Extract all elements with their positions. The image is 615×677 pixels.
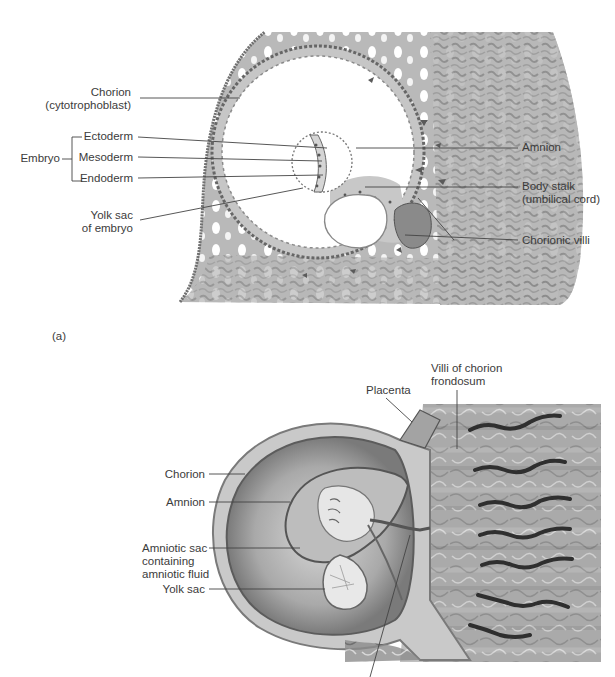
label-amnion-b: Amnion	[166, 496, 205, 509]
label-embryo: Embryo	[20, 152, 60, 165]
label-body-stalk: Body stalk (umbilical cord)	[522, 180, 600, 206]
label-amnion-a: Amnion	[522, 141, 561, 154]
label-villi-chorion-frondosum: Villi of chorion frondosum	[431, 362, 502, 388]
label-amniotic-line1: Amniotic sac	[142, 542, 209, 555]
label-mesoderm: Mesoderm	[79, 151, 133, 164]
label-chorion-line2: (cytotrophoblast)	[45, 99, 131, 112]
label-chorion-line1: Chorion	[45, 86, 131, 99]
embryo-development-figure: Chorion (cytotrophoblast) Embryo Ectoder…	[0, 0, 615, 677]
panel-label-a: (a)	[52, 330, 66, 343]
label-yolk-sac-line1: Yolk sac	[82, 209, 133, 222]
label-amniotic-line2: containing	[142, 555, 209, 568]
label-amniotic-line3: amniotic fluid	[142, 568, 209, 581]
label-amniotic-sac: Amniotic sac containing amniotic fluid	[142, 542, 209, 581]
label-placenta: Placenta	[366, 384, 411, 397]
label-body-stalk-line1: Body stalk	[522, 180, 600, 193]
label-body-stalk-line2: (umbilical cord)	[522, 193, 600, 206]
label-yolk-sac-a: Yolk sac of embryo	[82, 209, 133, 235]
label-villi-line1: Villi of chorion	[431, 362, 502, 375]
label-yolk-sac-b: Yolk sac	[163, 583, 205, 596]
label-villi-line2: frondosum	[431, 375, 502, 388]
label-ectoderm: Ectoderm	[84, 130, 133, 143]
label-endoderm: Endoderm	[80, 172, 133, 185]
label-chorion-b: Chorion	[165, 468, 205, 481]
label-chorionic-villi: Chorionic villi	[522, 234, 590, 247]
label-chorion-a: Chorion (cytotrophoblast)	[45, 86, 131, 112]
label-yolk-sac-line2: of embryo	[82, 222, 133, 235]
